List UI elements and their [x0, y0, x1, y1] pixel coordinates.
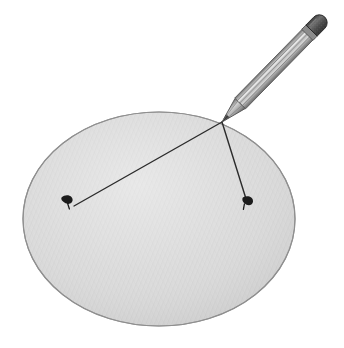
pencil-barrel — [235, 27, 315, 108]
disc-shading — [24, 113, 295, 326]
pencil-facet-3 — [242, 35, 311, 106]
pencil-facet-highlight — [238, 31, 307, 102]
figure-container: A grey textured elliptical disc with a p… — [0, 0, 344, 348]
illustration-canvas — [0, 0, 344, 348]
pencil-group — [216, 12, 330, 128]
pencil-facet-2 — [240, 32, 309, 103]
disc-group — [23, 112, 295, 326]
pencil-facet-1 — [237, 30, 306, 101]
